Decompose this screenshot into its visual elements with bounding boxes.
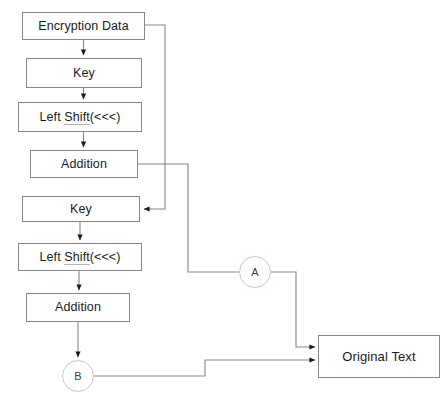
- connector-a[interactable]: A: [239, 256, 271, 288]
- node-encryption-data-label: Encryption Data: [38, 20, 128, 33]
- connector-a-label: A: [251, 266, 258, 278]
- node-original-text[interactable]: Original Text: [318, 335, 440, 378]
- node-key-2[interactable]: Key: [22, 196, 140, 222]
- left-shift-2-prefix: Left: [39, 250, 64, 264]
- node-left-shift-2-label: Left Shift(<<<): [39, 251, 120, 264]
- left-shift-1-spellcheck-word: Shift: [64, 110, 90, 125]
- node-addition-2[interactable]: Addition: [26, 293, 130, 322]
- left-shift-1-suffix: (<<<): [90, 110, 121, 124]
- flowchart-canvas: Encryption Data Key Left Shift(<<<) Addi…: [0, 0, 448, 406]
- node-encryption-data[interactable]: Encryption Data: [22, 12, 145, 40]
- node-key-2-label: Key: [70, 203, 92, 216]
- left-shift-1-prefix: Left: [39, 110, 64, 124]
- node-addition-2-label: Addition: [55, 301, 101, 314]
- connector-b[interactable]: B: [62, 360, 94, 392]
- node-key-1[interactable]: Key: [26, 58, 142, 88]
- node-addition-1-label: Addition: [61, 158, 107, 171]
- node-addition-1[interactable]: Addition: [30, 150, 138, 178]
- node-left-shift-2[interactable]: Left Shift(<<<): [18, 243, 142, 271]
- left-shift-2-suffix: (<<<): [90, 250, 121, 264]
- edge-addition1-to-connector-a: [138, 164, 239, 272]
- edge-connector-a-to-original-text: [271, 272, 315, 347]
- edge-connector-b-to-original-text: [94, 360, 315, 376]
- edge-encryption-to-key2: [144, 25, 165, 209]
- node-key-1-label: Key: [73, 67, 95, 80]
- left-shift-2-spellcheck-word: Shift: [64, 250, 90, 265]
- connector-b-label: B: [74, 370, 81, 382]
- node-left-shift-1-label: Left Shift(<<<): [39, 111, 120, 124]
- node-left-shift-1[interactable]: Left Shift(<<<): [18, 102, 142, 132]
- node-original-text-label: Original Text: [342, 350, 415, 363]
